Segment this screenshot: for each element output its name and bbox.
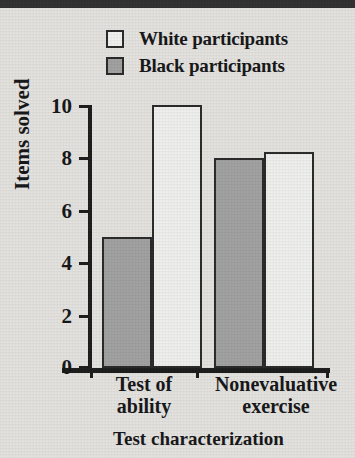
chart-legend: White participants Black participants bbox=[106, 25, 346, 79]
legend-item-black-participants: Black participants bbox=[106, 52, 346, 79]
bar-nonevaluative-exercise-black bbox=[214, 158, 264, 368]
x-category-label-1-line2: exercise bbox=[202, 396, 350, 418]
y-tick-4: 4 bbox=[79, 262, 88, 265]
x-category-label-0-line1: Test of bbox=[88, 374, 200, 396]
bar-test-of-ability-black bbox=[102, 237, 152, 369]
y-tick-label-0: 0 bbox=[62, 355, 73, 380]
x-axis-title: Test characterization bbox=[0, 428, 355, 450]
x-category-label-1: Nonevaluative exercise bbox=[202, 374, 350, 417]
y-tick-2: 2 bbox=[79, 315, 88, 318]
y-axis-title: Items solved bbox=[10, 10, 35, 190]
y-tick-8: 8 bbox=[79, 157, 88, 160]
y-tick-6: 6 bbox=[79, 210, 88, 213]
x-category-label-0: Test of ability bbox=[88, 374, 200, 417]
bar-chart-figure: White participants Black participants 10… bbox=[0, 0, 355, 458]
y-tick-0: 0 bbox=[79, 366, 88, 369]
y-tick-label-8: 8 bbox=[62, 146, 73, 171]
legend-label-black: Black participants bbox=[139, 55, 285, 77]
y-tick-label-10: 10 bbox=[51, 94, 72, 119]
bar-test-of-ability-white bbox=[152, 105, 202, 368]
x-category-label-0-line2: ability bbox=[88, 396, 200, 418]
y-axis-spine bbox=[88, 105, 92, 368]
legend-item-white-participants: White participants bbox=[106, 25, 346, 52]
y-tick-label-4: 4 bbox=[62, 251, 73, 276]
gray-square-swatch bbox=[106, 57, 124, 75]
legend-label-white: White participants bbox=[139, 28, 288, 50]
x-category-label-1-line1: Nonevaluative bbox=[202, 374, 350, 396]
bar-nonevaluative-exercise-white bbox=[264, 152, 314, 368]
white-square-swatch bbox=[106, 30, 124, 48]
top-border-strip bbox=[0, 0, 355, 8]
plot-area: 10 8 6 4 2 0 bbox=[88, 105, 330, 368]
y-tick-label-6: 6 bbox=[62, 199, 73, 224]
y-tick-10: 10 bbox=[79, 105, 88, 108]
y-tick-label-2: 2 bbox=[62, 304, 73, 329]
